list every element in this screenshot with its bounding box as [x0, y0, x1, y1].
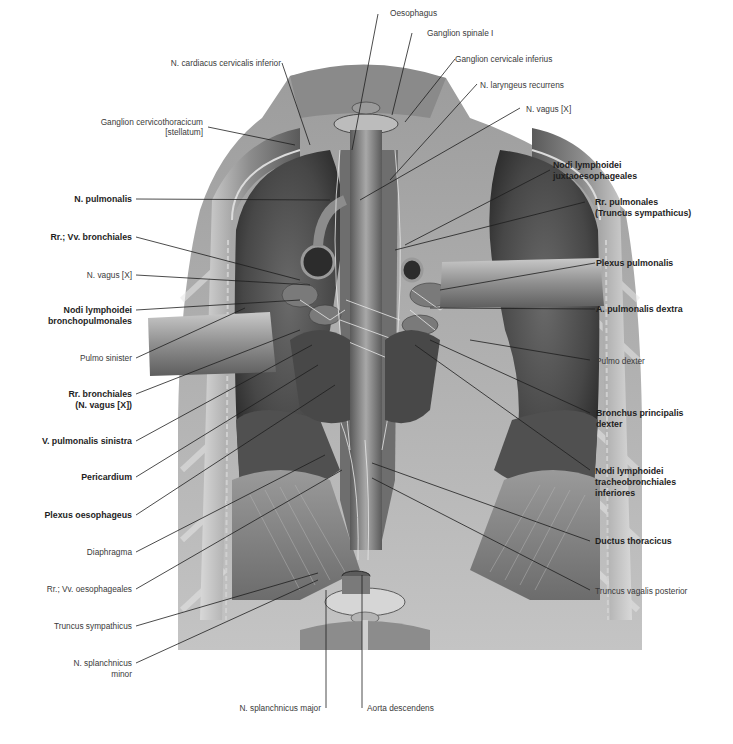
label-rr-pulmonales-1: Rr. pulmonales [595, 197, 658, 208]
label-plexus-oesophageus: Plexus oesophageus [44, 510, 132, 521]
label-nodi-juxtaoesophageales-1: Nodi lymphoidei [553, 160, 621, 171]
label-nodi-tracheobronchiales-2: tracheobronchiales [595, 477, 676, 488]
label-nodi-tracheobronchiales-3: inferiores [595, 488, 635, 499]
label-n-splanchnicus-minor-1: N. splanchnicus [73, 658, 132, 669]
label-n-splanchnicus-major: N. splanchnicus major [239, 703, 321, 714]
label-oesophagus: Oesophagus [390, 8, 437, 19]
label-rr-bronchiales-1: Rr. bronchiales [68, 389, 132, 400]
label-n-pulmonalis: N. pulmonalis [74, 194, 132, 205]
label-n-laryngeus-recurrens: N. laryngeus recurrens [480, 80, 564, 91]
label-bronchus-principalis-dexter-2: dexter [596, 419, 622, 430]
label-nodi-juxtaoesophageales-2: juxtaoesophageales [553, 171, 637, 182]
label-ganglion-cervicothoracicum: Ganglion cervicothoracicum [101, 117, 203, 128]
anatomy-figure: N. cardiacus cervicalis inferior Oesopha… [0, 0, 733, 744]
label-ganglion-stellatum: [stellatum] [165, 127, 203, 138]
label-n-vagus-left: N. vagus [X] [87, 270, 132, 281]
label-n-splanchnicus-minor-2: minor [111, 669, 132, 680]
label-ductus-thoracicus: Ductus thoracicus [595, 536, 672, 547]
label-rr-pulmonales-2: (Truncus sympathicus) [595, 208, 691, 219]
label-nodi-bronchopulmonales-2: bronchopulmonales [48, 316, 132, 327]
label-nodi-tracheobronchiales-1: Nodi lymphoidei [595, 466, 663, 477]
label-pulmo-sinister: Pulmo sinister [80, 353, 132, 364]
label-rr-vv-oesophageales: Rr.; Vv. oesophageales [47, 584, 132, 595]
label-n-vagus-right: N. vagus [X] [526, 104, 571, 115]
label-pulmo-dexter: Pulmo dexter [596, 356, 645, 367]
thorax-illustration [0, 0, 733, 744]
label-n-cardiacus-cervicalis-inferior: N. cardiacus cervicalis inferior [171, 58, 281, 69]
label-rr-vv-bronchiales: Rr.; Vv. bronchiales [51, 232, 132, 243]
label-plexus-pulmonalis: Plexus pulmonalis [596, 258, 673, 269]
label-rr-bronchiales-2: (N. vagus [X]) [75, 400, 132, 411]
label-ganglion-spinale: Ganglion spinale I [427, 28, 493, 39]
label-a-pulmonalis-dextra: A. pulmonalis dextra [596, 304, 683, 315]
label-pericardium: Pericardium [81, 472, 132, 483]
label-v-pulmonalis-sinistra: V. pulmonalis sinistra [42, 436, 132, 447]
label-truncus-sympathicus: Truncus sympathicus [54, 621, 132, 632]
label-bronchus-principalis-dexter-1: Bronchus principalis [596, 408, 684, 419]
label-ganglion-cervicale-inferius: Ganglion cervicale inferius [455, 54, 552, 65]
label-diaphragma: Diaphragma [87, 547, 132, 558]
label-aorta-descendens: Aorta descendens [367, 703, 434, 714]
label-truncus-vagalis-posterior: Truncus vagalis posterior [595, 586, 687, 597]
label-nodi-bronchopulmonales-1: Nodi lymphoidei [64, 305, 132, 316]
